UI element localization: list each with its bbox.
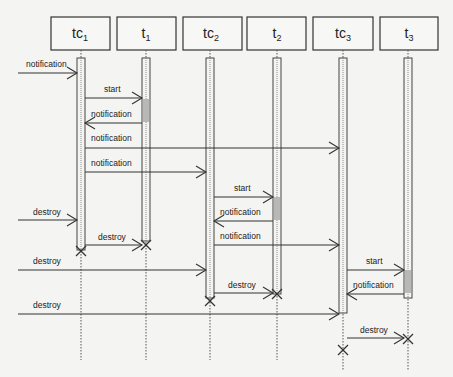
message-2: notification — [85, 109, 142, 129]
svg-text:notification: notification — [91, 158, 132, 168]
message-7: destroy — [18, 207, 77, 226]
svg-text:destroy: destroy — [360, 325, 389, 335]
svg-text:destroy: destroy — [228, 280, 257, 290]
message-14: destroy — [18, 300, 339, 320]
participant-tc2: tc2 — [183, 17, 242, 50]
svg-text:notification: notification — [353, 280, 394, 290]
message-11: start — [347, 256, 404, 276]
svg-text:destroy: destroy — [33, 207, 62, 217]
message-13: notification — [347, 280, 404, 300]
svg-text:destroy: destroy — [98, 232, 127, 242]
svg-text:start: start — [234, 183, 251, 193]
svg-text:start: start — [366, 256, 383, 266]
message-10: destroy — [18, 256, 206, 276]
svg-text:destroy: destroy — [33, 256, 62, 266]
svg-text:notification: notification — [220, 231, 261, 241]
participant-t2: t2 — [247, 17, 306, 50]
participant-tc3: tc3 — [313, 17, 373, 50]
svg-text:notification: notification — [220, 207, 261, 217]
message-6: notification — [214, 207, 273, 227]
participant-t3: t3 — [380, 17, 438, 50]
svg-text:start: start — [104, 84, 121, 94]
svg-text:destroy: destroy — [33, 300, 62, 310]
message-5: start — [214, 183, 273, 203]
svg-text:notification: notification — [26, 59, 67, 69]
svg-text:notification: notification — [91, 133, 132, 143]
message-12: destroy — [214, 280, 273, 299]
participant-tc1: tc1 — [51, 17, 110, 50]
message-8: destroy — [85, 232, 142, 251]
participant-t1: t1 — [117, 17, 176, 50]
sequence-diagram: tc1 t1 tc2 t2 tc3 t3 — [0, 0, 453, 377]
message-15: destroy — [347, 325, 404, 344]
message-0: notification — [18, 59, 77, 79]
message-1: start — [85, 84, 142, 104]
svg-text:notification: notification — [91, 109, 132, 119]
